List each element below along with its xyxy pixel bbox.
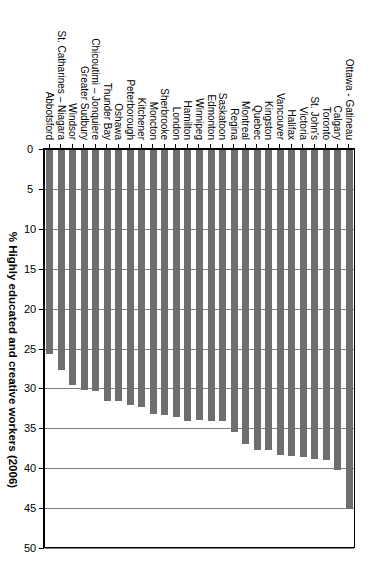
category-tick bbox=[302, 144, 303, 149]
category-tick bbox=[268, 144, 269, 149]
category-label: St. Catharines – Niagara bbox=[56, 30, 67, 140]
bar bbox=[323, 150, 330, 460]
bar bbox=[334, 150, 341, 470]
bar-series bbox=[44, 150, 355, 548]
category-tick bbox=[95, 144, 96, 149]
category-label: Saskatoon bbox=[217, 93, 228, 140]
category-label: Abbotsford bbox=[44, 92, 55, 140]
category-label: Kingston bbox=[263, 101, 274, 140]
category-tick bbox=[129, 144, 130, 149]
bar bbox=[161, 150, 168, 415]
category-tick bbox=[60, 144, 61, 149]
category-tick bbox=[222, 144, 223, 149]
bar bbox=[208, 150, 215, 421]
tick-label-30: 30 bbox=[19, 382, 41, 394]
category-tick bbox=[348, 144, 349, 149]
bar bbox=[69, 150, 76, 385]
tick-label-5: 5 bbox=[19, 183, 41, 195]
category-tick bbox=[164, 144, 165, 149]
category-label: Edmonton bbox=[206, 94, 217, 140]
category-tick bbox=[175, 144, 176, 149]
tick-label-10: 10 bbox=[19, 223, 41, 235]
bar bbox=[150, 150, 157, 414]
category-label: Winnipeg bbox=[194, 98, 205, 140]
category-tick bbox=[291, 144, 292, 149]
category-label: Oshawa bbox=[113, 103, 124, 140]
category-label: Peterborough bbox=[125, 79, 136, 140]
category-tick bbox=[118, 144, 119, 149]
bar bbox=[173, 150, 180, 417]
bar bbox=[184, 150, 191, 421]
category-label: St. John's bbox=[309, 96, 320, 140]
category-tick bbox=[83, 144, 84, 149]
bar bbox=[92, 150, 99, 391]
bar bbox=[104, 150, 111, 401]
category-tick bbox=[337, 144, 338, 149]
bar bbox=[242, 150, 249, 444]
bar-chart-figure: 05101520253035404550 Ottawa - GatineauCa… bbox=[0, 0, 369, 563]
tick-label-45: 45 bbox=[19, 502, 41, 514]
bar bbox=[300, 150, 307, 457]
tick-label-50: 50 bbox=[19, 542, 41, 554]
category-tick bbox=[325, 144, 326, 149]
category-label: Moncton bbox=[148, 102, 159, 140]
category-tick bbox=[49, 144, 50, 149]
category-tick bbox=[199, 144, 200, 149]
category-tick bbox=[256, 144, 257, 149]
value-axis-title: % Highly educated and creative workers (… bbox=[7, 180, 19, 540]
category-tick bbox=[187, 144, 188, 149]
bar bbox=[346, 150, 353, 509]
tick-label-15: 15 bbox=[19, 263, 41, 275]
category-label: Calgary bbox=[332, 106, 343, 140]
category-tick bbox=[72, 144, 73, 149]
category-tick bbox=[141, 144, 142, 149]
tick-label-25: 25 bbox=[19, 343, 41, 355]
category-tick bbox=[314, 144, 315, 149]
bar bbox=[46, 150, 53, 354]
category-label: Quebec bbox=[252, 105, 263, 140]
bar bbox=[58, 150, 65, 370]
bar bbox=[127, 150, 134, 405]
category-label: Chicoutimi – Jonquiere bbox=[90, 38, 101, 140]
bar bbox=[115, 150, 122, 401]
category-tick bbox=[210, 144, 211, 149]
bar bbox=[288, 150, 295, 456]
category-label: Halifax bbox=[286, 109, 297, 140]
bar bbox=[265, 150, 272, 450]
bar bbox=[231, 150, 238, 432]
gridline-50 bbox=[45, 548, 354, 549]
bar bbox=[311, 150, 318, 459]
category-label: Greater Sudbury bbox=[79, 66, 90, 140]
category-label: Sherbrooke bbox=[159, 88, 170, 140]
category-label: Vancouver bbox=[275, 93, 286, 140]
tick-label-40: 40 bbox=[19, 462, 41, 474]
tick-label-35: 35 bbox=[19, 422, 41, 434]
bar bbox=[138, 150, 145, 407]
category-tick bbox=[245, 144, 246, 149]
bar bbox=[254, 150, 261, 450]
category-label: Kitchener bbox=[136, 98, 147, 140]
category-tick bbox=[152, 144, 153, 149]
category-tick bbox=[106, 144, 107, 149]
category-label: Hamilton bbox=[182, 101, 193, 140]
tick-label-0: 0 bbox=[19, 143, 41, 155]
bar bbox=[277, 150, 284, 455]
category-tick bbox=[233, 144, 234, 149]
category-label: London bbox=[171, 107, 182, 140]
category-label: Montreal bbox=[240, 101, 251, 140]
category-label: Regina bbox=[229, 108, 240, 140]
category-label: Ottawa - Gatineau bbox=[344, 59, 355, 140]
bar bbox=[219, 150, 226, 421]
category-label: Windsor bbox=[67, 103, 78, 140]
category-label: Thunder Bay bbox=[102, 83, 113, 140]
category-axis-labels: Ottawa - GatineauCalgaryTorontoSt. John'… bbox=[44, 0, 355, 149]
bar bbox=[196, 150, 203, 420]
tick-label-20: 20 bbox=[19, 303, 41, 315]
category-tick bbox=[279, 144, 280, 149]
bar bbox=[81, 150, 88, 390]
category-label: Toronto bbox=[321, 107, 332, 140]
category-label: Victoria bbox=[298, 107, 309, 140]
